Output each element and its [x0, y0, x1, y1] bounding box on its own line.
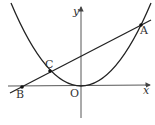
label-b: B [16, 88, 24, 101]
label-c: C [45, 58, 53, 71]
label-a: A [139, 24, 149, 37]
label-origin: O [70, 87, 79, 100]
line-bca [10, 20, 151, 93]
label-y-axis: y [72, 5, 80, 18]
label-x-axis: x [143, 84, 150, 97]
diagram-canvas: A B C O x y [0, 0, 155, 125]
